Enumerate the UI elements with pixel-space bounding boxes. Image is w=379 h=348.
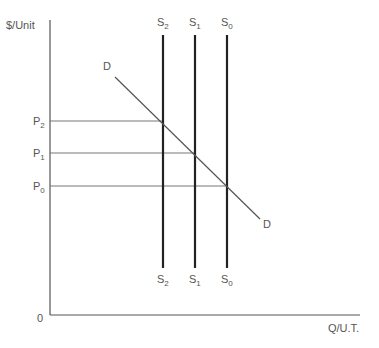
- supply-label-s0-bottom: S0: [221, 273, 233, 288]
- x-axis-label: Q/U.T.: [328, 322, 359, 334]
- price-label-p0: P0: [33, 180, 45, 195]
- origin-label: 0: [37, 312, 43, 324]
- demand-curve: [115, 77, 260, 219]
- price-label-p2: P2: [33, 115, 45, 130]
- supply-label-s0-top: S0: [221, 16, 233, 31]
- supply-demand-diagram: $/Unit Q/U.T. 0 P2 P1 P0 S2 S1 S0 S2 S1 …: [0, 0, 379, 348]
- demand-label-bottom: D: [263, 218, 271, 230]
- y-axis-label: $/Unit: [6, 19, 35, 31]
- supply-label-s1-bottom: S1: [189, 273, 201, 288]
- demand-label-top: D: [103, 60, 111, 72]
- supply-label-s2-bottom: S2: [157, 273, 169, 288]
- supply-label-s1-top: S1: [189, 16, 201, 31]
- price-label-p1: P1: [33, 147, 45, 162]
- supply-label-s2-top: S2: [157, 16, 169, 31]
